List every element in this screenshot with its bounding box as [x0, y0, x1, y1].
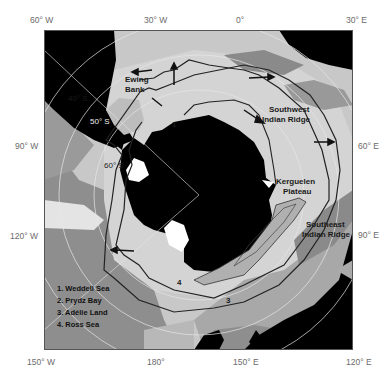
axis-label-bottom-150w: 150° W	[27, 358, 55, 367]
axis-label-top-30w: 30° W	[144, 16, 167, 25]
legend-item-4: 4. Ross Sea	[57, 320, 100, 329]
site-marker-1: 1	[172, 120, 177, 129]
axis-label-top-30e: 30° E	[346, 16, 367, 25]
axis-label-left-90w: 90° W	[15, 142, 38, 151]
axis-label-right-60e: 60° E	[358, 142, 379, 151]
feature-label-kerguelen-2: Plateau	[283, 187, 312, 196]
legend-item-2: 2. Prydz Bay	[57, 296, 102, 305]
site-marker-4: 4	[177, 278, 182, 287]
feature-label-sw-indian-ridge-2: Indian Ridge	[262, 115, 311, 124]
map-frame: 40° S 50° S 60° S Ewing Bank Southwest I…	[44, 30, 353, 350]
axis-label-top-60w: 60° W	[30, 16, 53, 25]
feature-label-ewing-bank: Ewing	[125, 75, 149, 84]
latitude-label-40s: 40° S	[68, 94, 88, 103]
axis-label-bottom-150e: 150° E	[233, 358, 259, 367]
legend-item-3: 3. Adélie Land	[57, 308, 108, 317]
map-canvas: 40° S 50° S 60° S Ewing Bank Southwest I…	[44, 30, 353, 350]
feature-label-se-indian-ridge-2: Indian Ridge	[302, 230, 351, 239]
axis-label-top-0: 0°	[236, 16, 244, 25]
site-marker-3: 3	[226, 296, 231, 305]
latitude-label-60s: 60° S	[104, 161, 124, 170]
feature-label-kerguelen: Kerguelen	[276, 177, 315, 186]
axis-label-bottom-180: 180°	[147, 358, 165, 367]
legend-item-1: 1. Weddell Sea	[57, 284, 110, 293]
feature-label-sw-indian-ridge: Southwest	[269, 105, 310, 114]
axis-label-left-120w: 120° W	[10, 232, 38, 241]
feature-label-ewing-bank-2: Bank	[125, 85, 145, 94]
feature-label-se-indian-ridge: Southeast	[306, 220, 345, 229]
axis-label-right-90e: 90° E	[358, 231, 379, 240]
latitude-label-50s: 50° S	[90, 117, 110, 126]
axis-label-bottom-120e: 120° E	[346, 358, 372, 367]
